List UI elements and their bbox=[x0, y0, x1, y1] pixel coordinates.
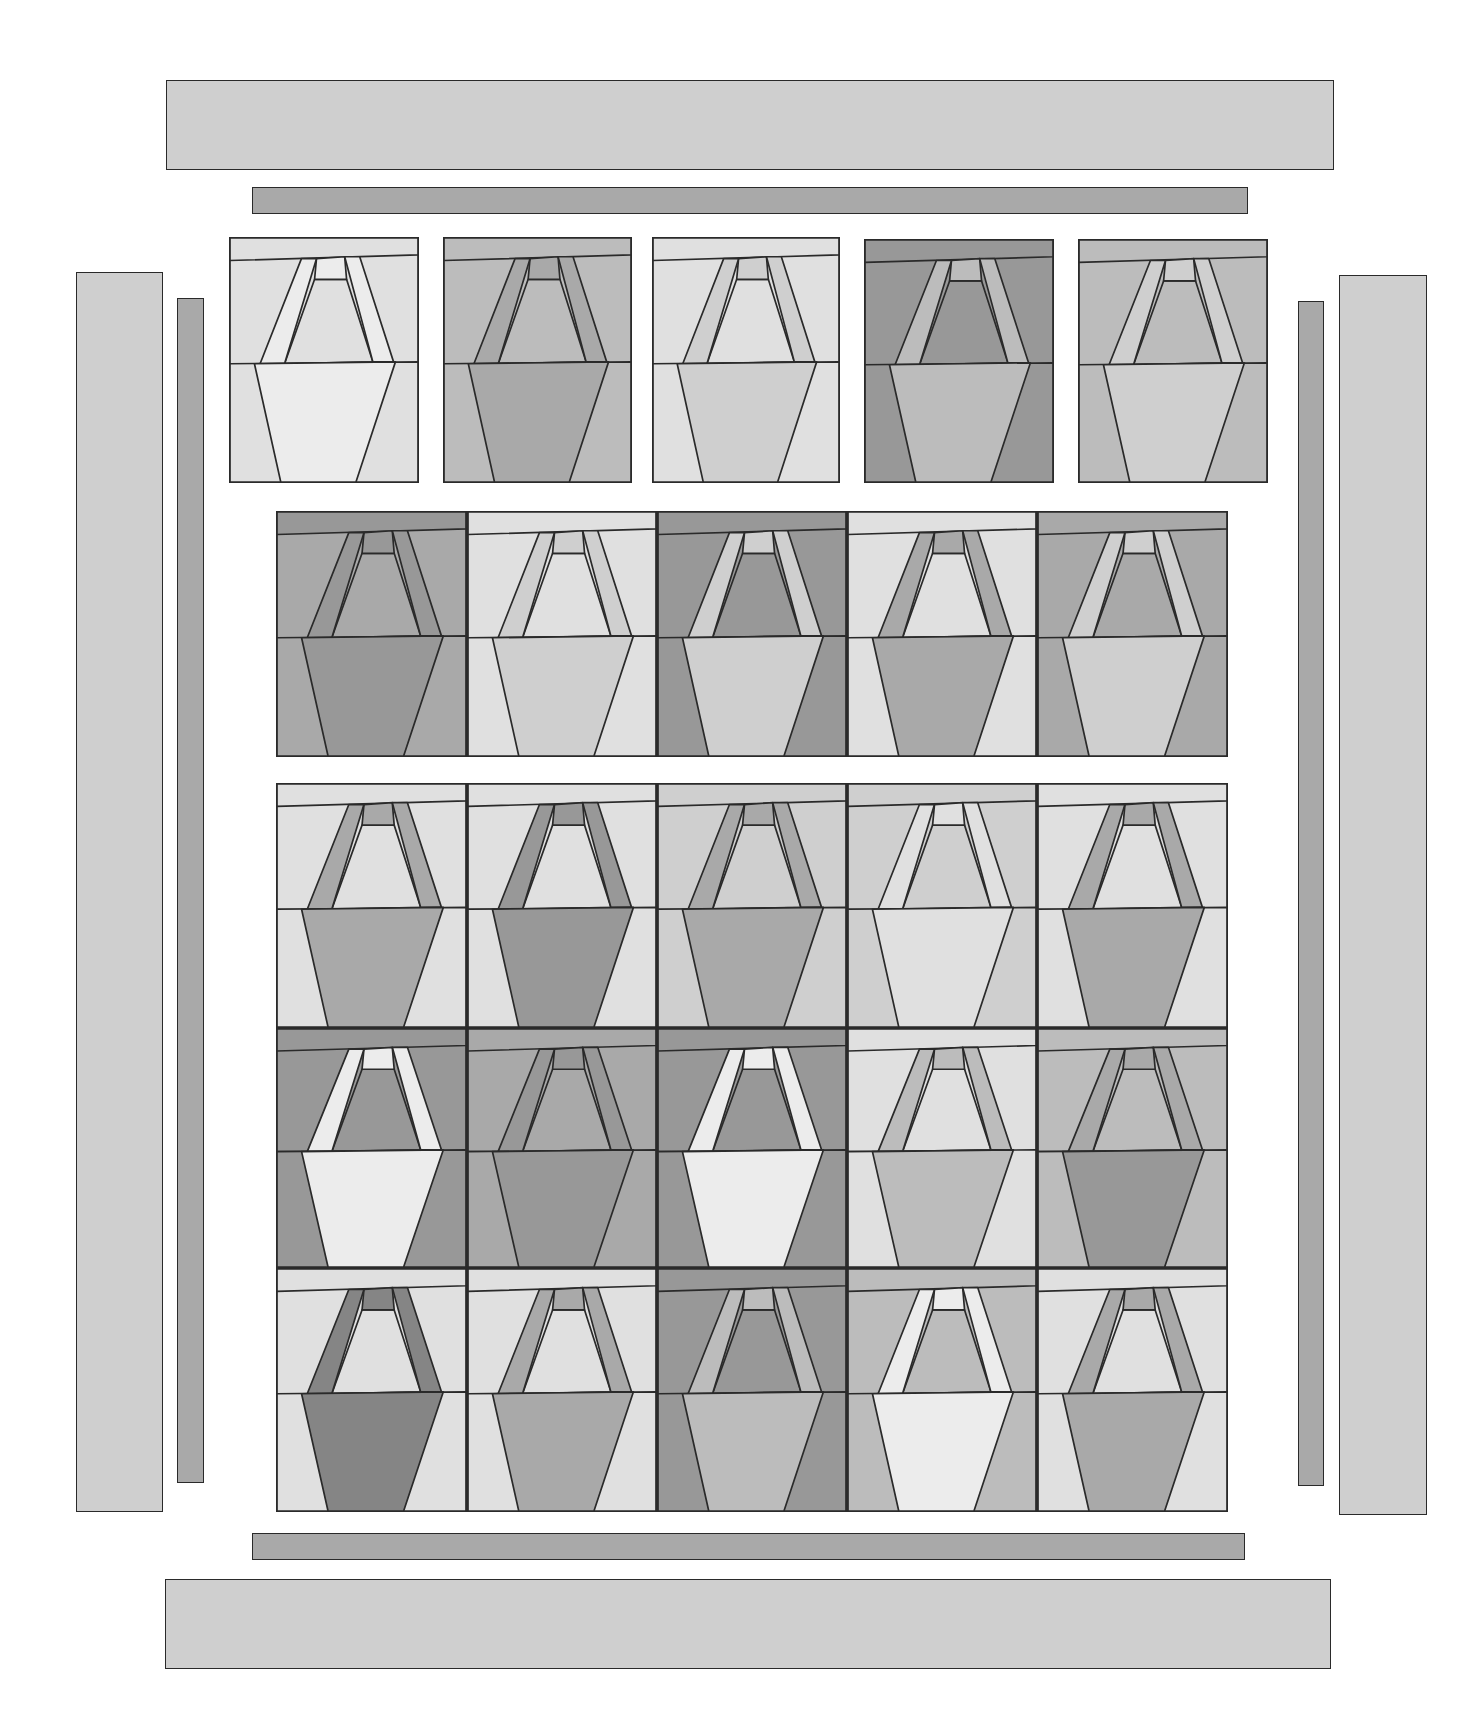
basket-block bbox=[276, 783, 467, 1028]
basket-icon bbox=[1038, 512, 1227, 756]
basket-block bbox=[276, 511, 467, 757]
basket-icon bbox=[277, 1269, 466, 1511]
basket-icon bbox=[848, 1269, 1036, 1511]
basket-block bbox=[467, 783, 657, 1028]
basket-icon bbox=[1038, 784, 1227, 1027]
basket-icon bbox=[468, 512, 656, 756]
basket-icon bbox=[653, 238, 839, 482]
basket-icon bbox=[658, 784, 846, 1027]
basket-block bbox=[847, 783, 1037, 1028]
basket-icon bbox=[848, 512, 1036, 756]
basket-block bbox=[276, 1268, 467, 1512]
basket-icon bbox=[658, 1269, 846, 1511]
basket-icon bbox=[1079, 240, 1267, 482]
basket-icon bbox=[1038, 1269, 1227, 1511]
border-outer-right bbox=[1339, 275, 1427, 1515]
basket-block bbox=[276, 1028, 467, 1268]
basket-icon bbox=[468, 1029, 656, 1267]
basket-block bbox=[657, 783, 847, 1028]
basket-block bbox=[847, 1028, 1037, 1268]
basket-block bbox=[1037, 783, 1228, 1028]
basket-icon bbox=[848, 1029, 1036, 1267]
basket-block bbox=[443, 237, 632, 483]
basket-icon bbox=[848, 784, 1036, 1027]
basket-icon bbox=[658, 512, 846, 756]
basket-icon bbox=[277, 784, 466, 1027]
border-outer-left bbox=[76, 272, 163, 1512]
basket-block bbox=[657, 511, 847, 757]
basket-block bbox=[1037, 511, 1228, 757]
basket-icon bbox=[468, 784, 656, 1027]
basket-icon bbox=[658, 1029, 846, 1267]
basket-icon bbox=[1038, 1029, 1227, 1267]
basket-icon bbox=[865, 240, 1053, 482]
basket-block bbox=[1078, 239, 1268, 483]
basket-icon bbox=[468, 1269, 656, 1511]
basket-block bbox=[657, 1028, 847, 1268]
basket-block bbox=[229, 237, 419, 483]
basket-icon bbox=[444, 238, 631, 482]
basket-block bbox=[1037, 1268, 1228, 1512]
border-inner-right bbox=[1298, 301, 1324, 1486]
basket-block bbox=[657, 1268, 847, 1512]
basket-block bbox=[652, 237, 840, 483]
border-inner-left bbox=[177, 298, 204, 1483]
basket-block bbox=[847, 511, 1037, 757]
border-outer-bottom bbox=[165, 1579, 1331, 1669]
border-outer-top bbox=[166, 80, 1334, 170]
basket-block bbox=[467, 1028, 657, 1268]
basket-block bbox=[467, 1268, 657, 1512]
basket-icon bbox=[277, 512, 466, 756]
basket-block bbox=[864, 239, 1054, 483]
basket-block bbox=[847, 1268, 1037, 1512]
basket-icon bbox=[277, 1029, 466, 1267]
border-inner-bottom bbox=[252, 1533, 1245, 1560]
basket-block bbox=[467, 511, 657, 757]
border-inner-top bbox=[252, 187, 1248, 214]
basket-icon bbox=[230, 238, 418, 482]
basket-block bbox=[1037, 1028, 1228, 1268]
